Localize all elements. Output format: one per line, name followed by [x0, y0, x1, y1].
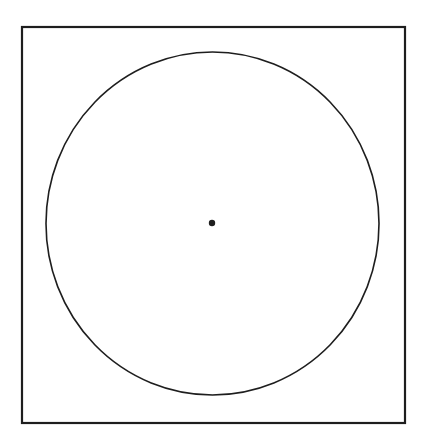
- diagram-canvas: [0, 0, 425, 444]
- center-point: [209, 220, 215, 226]
